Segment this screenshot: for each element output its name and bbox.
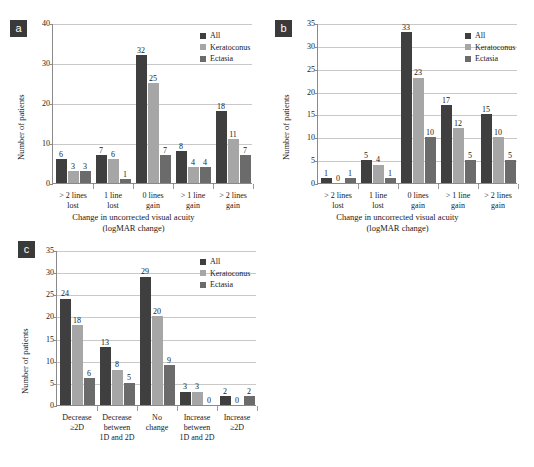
x-axis-tick: [213, 184, 214, 189]
legend-label: All: [210, 256, 220, 268]
x-axis-title-b: Change in uncorrected visual acuity (log…: [261, 212, 534, 234]
bar-group: 330: [177, 392, 217, 405]
bar-keratoconus: 4: [373, 165, 384, 183]
legend-swatch-icon: [200, 44, 206, 50]
bar-value-label: 3: [83, 163, 87, 171]
x-category-label: > 2 lines gain: [207, 191, 259, 211]
bar-group: 1385: [97, 347, 137, 405]
bar-group: 24186: [57, 299, 97, 405]
y-axis-label-c: Number of patients: [20, 328, 30, 394]
bar-value-label: 9: [167, 357, 171, 365]
y-tick-label: 40: [42, 20, 50, 28]
bar-value-label: 4: [376, 156, 380, 164]
legend-a: AllKeratoconusEctasia: [200, 30, 250, 65]
y-tick-label: 10: [46, 358, 54, 366]
legend-label: Ectasia: [475, 53, 498, 65]
y-tick-mark: [50, 24, 53, 25]
bar-all: 13: [100, 347, 111, 405]
legend-swatch-icon: [200, 33, 206, 39]
bar-value-label: 17: [442, 97, 450, 105]
bar-value-label: 20: [153, 308, 161, 316]
x-axis-tick: [173, 184, 174, 189]
bar-keratoconus: 11: [228, 139, 239, 183]
bar-ectasia: 5: [465, 160, 476, 183]
bar-value-label: 5: [127, 374, 131, 382]
bar-keratoconus: 3: [68, 171, 79, 183]
bar-value-label: 6: [59, 151, 63, 159]
bar-keratoconus: 20: [152, 316, 163, 405]
bar-value-label: 10: [426, 129, 434, 137]
bar-value-label: 5: [508, 152, 512, 160]
y-tick-label: 30: [46, 269, 54, 277]
y-tick-label: 20: [307, 89, 315, 97]
bar-ectasia: 1: [345, 178, 356, 183]
y-tick-label: 20: [42, 100, 50, 108]
gridline: [318, 24, 517, 25]
legend-swatch-icon: [465, 56, 471, 62]
y-tick-mark: [54, 406, 57, 407]
legend-item-keratoconus: Keratoconus: [200, 268, 250, 280]
chart-panel-b: b Number of patients 05101520253035101> …: [261, 0, 534, 234]
bar-ectasia: 1: [120, 179, 131, 183]
bar-value-label: 24: [61, 290, 69, 298]
y-tick-label: 10: [307, 134, 315, 142]
bar-value-label: 12: [454, 120, 462, 128]
bar-value-label: 2: [247, 388, 251, 396]
y-tick-mark: [315, 138, 318, 139]
bar-all: 29: [140, 277, 151, 405]
legend-swatch-icon: [200, 282, 206, 288]
y-tick-mark: [315, 184, 318, 185]
bar-value-label: 8: [115, 361, 119, 369]
y-tick-label: 35: [307, 20, 315, 28]
bar-value-label: 32: [137, 47, 145, 55]
bar-keratoconus: 6: [108, 159, 119, 183]
legend-label: All: [475, 30, 485, 42]
bar-group: 844: [173, 151, 213, 183]
bar-group: 15105: [478, 114, 518, 183]
bar-value-label: 8: [179, 143, 183, 151]
gridline: [53, 24, 252, 25]
legend-swatch-icon: [465, 33, 471, 39]
bar-group: 332310: [398, 32, 438, 183]
y-tick-mark: [315, 115, 318, 116]
bar-all: 32: [136, 55, 147, 183]
bar-ectasia: 9: [164, 365, 175, 405]
bar-value-label: 1: [324, 170, 328, 178]
legend-item-ectasia: Ectasia: [465, 53, 515, 65]
bar-ectasia: 5: [505, 160, 516, 183]
legend-item-all: All: [465, 30, 515, 42]
y-tick-label: 35: [46, 247, 54, 255]
x-axis-tick: [97, 406, 98, 411]
bar-value-label: 18: [217, 103, 225, 111]
bar-value-label: 0: [207, 397, 211, 405]
bar-group: 32257: [133, 55, 173, 183]
bar-ectasia: 2: [244, 396, 255, 405]
legend-label: Ectasia: [210, 53, 233, 65]
legend-label: Ectasia: [210, 279, 233, 291]
y-tick-mark: [315, 47, 318, 48]
bar-keratoconus: 18: [72, 325, 83, 405]
bar-value-label: 1: [123, 171, 127, 179]
y-tick-mark: [50, 184, 53, 185]
bar-value-label: 6: [111, 151, 115, 159]
bar-all: 18: [216, 111, 227, 183]
legend-swatch-icon: [200, 259, 206, 265]
bar-ectasia: 10: [425, 137, 436, 183]
bar-all: 8: [176, 151, 187, 183]
bar-value-label: 7: [243, 147, 247, 155]
bar-value-label: 3: [183, 383, 187, 391]
x-axis-tick: [177, 406, 178, 411]
legend-item-keratoconus: Keratoconus: [465, 42, 515, 54]
y-tick-mark: [315, 70, 318, 71]
chart-panel-c: c Number of patients 0510152025303524186…: [8, 234, 308, 467]
x-axis-tick: [257, 406, 258, 411]
bar-all: 2: [220, 396, 231, 405]
bar-keratoconus: 3: [192, 392, 203, 405]
x-category-label: > 2 lines gain: [472, 191, 524, 211]
x-axis-tick: [438, 184, 439, 189]
bar-value-label: 1: [388, 170, 392, 178]
bar-value-label: 4: [191, 159, 195, 167]
bar-value-label: 3: [71, 163, 75, 171]
legend-item-all: All: [200, 30, 250, 42]
bar-group: 101: [318, 178, 358, 183]
